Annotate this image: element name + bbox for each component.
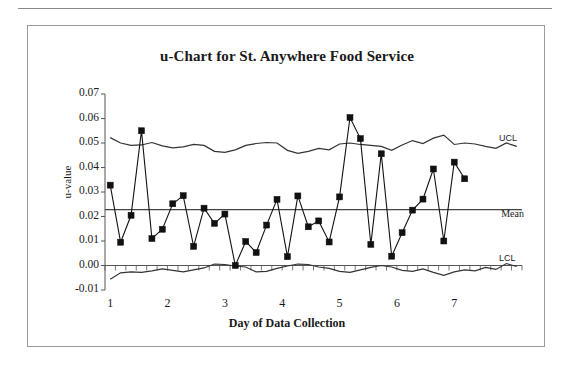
ucl-label: UCL <box>499 133 517 143</box>
data-point-marker <box>180 193 186 199</box>
data-point-marker <box>430 166 436 172</box>
data-point-marker <box>389 253 395 259</box>
data-point-marker <box>264 222 270 228</box>
data-point-marker <box>420 196 426 202</box>
data-point-marker <box>191 243 197 249</box>
data-point-marker <box>138 128 144 134</box>
data-point-marker <box>410 207 416 213</box>
data-point-marker <box>149 236 155 242</box>
data-point-marker <box>232 263 238 269</box>
data-point-marker <box>274 196 280 202</box>
data-point-marker <box>441 238 447 244</box>
data-point-marker <box>347 115 353 121</box>
data-point-marker <box>326 239 332 245</box>
data-point-marker <box>118 239 124 245</box>
data-point-marker <box>399 230 405 236</box>
data-point-marker <box>337 194 343 200</box>
data-point-marker <box>284 254 290 260</box>
data-point-marker <box>170 201 176 207</box>
data-point-marker <box>462 176 468 182</box>
data-point-marker <box>316 218 322 224</box>
data-point-marker <box>128 212 134 218</box>
data-point-marker <box>243 238 249 244</box>
data-point-marker <box>378 151 384 157</box>
data-series-layer <box>110 118 464 266</box>
data-point-marker <box>451 159 457 165</box>
data-point-marker <box>253 250 259 256</box>
data-point-marker <box>222 211 228 217</box>
mean-label: Mean <box>501 208 524 219</box>
screenshot-page: u-Chart for St. Anywhere Food Service u-… <box>0 0 570 370</box>
data-point-marker <box>159 226 165 232</box>
u-value-line <box>110 118 464 266</box>
data-point-marker <box>368 241 374 247</box>
ucl-line <box>110 135 517 153</box>
axes-layer <box>101 94 522 290</box>
data-point-marker <box>357 136 363 142</box>
data-point-marker <box>295 193 301 199</box>
data-markers-layer <box>107 115 467 269</box>
data-point-marker <box>107 182 113 188</box>
chart-plot-area <box>28 26 546 348</box>
lcl-label: LCL <box>499 253 516 263</box>
chart-figure: u-Chart for St. Anywhere Food Service u-… <box>27 25 545 347</box>
data-point-marker <box>201 205 207 211</box>
data-point-marker <box>305 224 311 230</box>
page-top-rule <box>18 8 552 9</box>
data-point-marker <box>211 220 217 226</box>
